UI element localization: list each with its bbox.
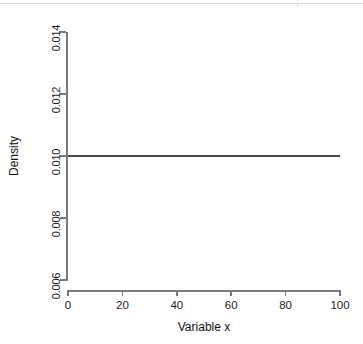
x-axis-tick	[339, 290, 341, 296]
y-axis-tick-label: 0.010	[50, 149, 62, 176]
x-axis-line	[68, 290, 341, 292]
x-axis-tick-label: 20	[116, 299, 129, 311]
density-series-line	[68, 155, 340, 158]
x-axis-tick	[230, 290, 232, 296]
y-axis-tick-label: 0.008	[50, 211, 62, 238]
x-axis-tick	[285, 290, 287, 296]
x-axis-tick-label: 0	[65, 299, 71, 311]
density-plot-figure: 0.0060.0080.0100.0120.014 Density 020406…	[0, 0, 363, 344]
plot-area	[68, 32, 340, 280]
x-axis-tick-label: 100	[330, 299, 349, 311]
x-axis-tick	[67, 290, 69, 296]
x-axis-tick-label: 40	[170, 299, 183, 311]
y-axis-tick-label: 0.006	[50, 273, 62, 300]
x-axis-tick-label: 80	[279, 299, 292, 311]
y-axis-tick-label: 0.014	[50, 25, 62, 52]
x-axis-tick-label: 60	[225, 299, 238, 311]
y-axis-title: Density	[7, 136, 21, 176]
x-axis-title: Variable x	[178, 320, 230, 334]
y-axis-tick-label: 0.012	[50, 87, 62, 114]
x-axis-tick	[122, 290, 124, 296]
x-axis-tick	[176, 290, 178, 296]
